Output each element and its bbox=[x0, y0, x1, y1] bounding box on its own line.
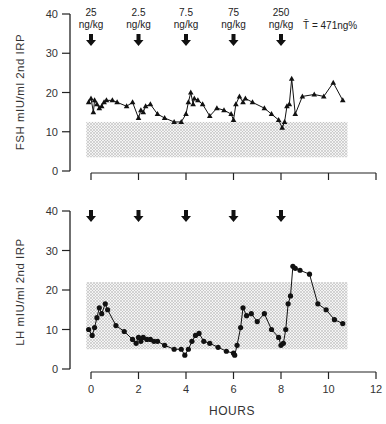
data-point bbox=[292, 111, 298, 116]
dose-unit: ng/kg bbox=[79, 19, 103, 30]
data-point bbox=[315, 301, 320, 306]
dose-value: 25 bbox=[85, 7, 97, 18]
data-point bbox=[196, 331, 201, 336]
data-point bbox=[207, 341, 212, 346]
data-point bbox=[183, 111, 189, 116]
data-point bbox=[243, 95, 249, 100]
data-point bbox=[130, 99, 136, 104]
data-point bbox=[249, 311, 254, 316]
data-point bbox=[91, 109, 97, 114]
data-point bbox=[97, 305, 102, 310]
data-point bbox=[307, 272, 312, 277]
dose-value: 2.5 bbox=[132, 7, 146, 18]
figure: 010203040 FSH mIU/ml 2nd IRP 25ng/kg2.5n… bbox=[0, 0, 386, 424]
data-point bbox=[136, 115, 142, 120]
dose-value: 75 bbox=[228, 7, 240, 18]
data-point bbox=[287, 101, 293, 106]
down-arrow-icon bbox=[86, 34, 96, 46]
data-point bbox=[182, 353, 187, 358]
data-point bbox=[105, 307, 110, 312]
down-arrow-icon bbox=[181, 210, 191, 222]
lh-x-axis: 024681012 bbox=[88, 372, 382, 395]
fsh-y-axis-label: FSH mIU/ml 2nd IRP bbox=[14, 34, 26, 150]
data-point bbox=[237, 93, 243, 98]
dose-value: 7.5 bbox=[179, 7, 193, 18]
fsh-y-ticks: 010203040 bbox=[46, 8, 70, 177]
t-bar-annotation: T̄ = 471ng% bbox=[303, 19, 357, 31]
x-tick-label: 6 bbox=[230, 383, 236, 395]
fsh-normal-range-band bbox=[86, 122, 347, 157]
lh-y-ticks: 010203040 bbox=[46, 205, 70, 375]
data-point bbox=[215, 345, 220, 350]
data-point bbox=[234, 343, 239, 348]
down-arrow-icon bbox=[229, 34, 239, 46]
data-point bbox=[255, 319, 260, 324]
data-point bbox=[188, 90, 194, 95]
data-point bbox=[190, 101, 196, 106]
x-tick-label: 10 bbox=[322, 383, 334, 395]
data-point bbox=[122, 329, 127, 334]
data-point bbox=[189, 339, 194, 344]
data-point bbox=[92, 325, 97, 330]
y-tick-label: 40 bbox=[46, 8, 58, 20]
data-point bbox=[86, 327, 91, 332]
dose-unit: ng/kg bbox=[174, 19, 198, 30]
data-point bbox=[297, 268, 302, 273]
data-point bbox=[283, 327, 288, 332]
data-point bbox=[224, 349, 229, 354]
data-point bbox=[148, 101, 154, 106]
data-point bbox=[172, 347, 177, 352]
data-point bbox=[214, 105, 220, 110]
data-point bbox=[162, 115, 168, 120]
data-point bbox=[192, 95, 198, 100]
data-point bbox=[103, 301, 108, 306]
y-tick-label: 20 bbox=[46, 284, 58, 296]
data-point bbox=[186, 347, 191, 352]
y-tick-label: 10 bbox=[46, 324, 58, 336]
fsh-series bbox=[86, 76, 346, 130]
lh-dose-arrows bbox=[86, 210, 286, 222]
y-tick-label: 0 bbox=[52, 165, 58, 177]
dose-unit: ng/kg bbox=[126, 19, 150, 30]
down-arrow-icon bbox=[229, 210, 239, 222]
data-point bbox=[88, 95, 94, 100]
data-point bbox=[340, 321, 345, 326]
data-point bbox=[233, 101, 239, 106]
data-point bbox=[232, 353, 237, 358]
down-arrow-icon bbox=[134, 210, 144, 222]
y-tick-label: 30 bbox=[46, 47, 58, 59]
data-point bbox=[324, 307, 329, 312]
data-point bbox=[282, 119, 288, 124]
data-point bbox=[262, 311, 267, 316]
data-point bbox=[269, 327, 274, 332]
lh-panel: 010203040 LH mIU/ml 2nd IRP bbox=[14, 205, 348, 375]
dose-unit: ng/kg bbox=[269, 19, 293, 30]
data-point bbox=[179, 347, 184, 352]
data-point bbox=[201, 339, 206, 344]
x-tick-label: 12 bbox=[370, 383, 382, 395]
data-point bbox=[155, 339, 160, 344]
down-arrow-icon bbox=[276, 210, 286, 222]
lh-normal-range-band bbox=[86, 282, 347, 349]
data-point bbox=[113, 323, 118, 328]
down-arrow-icon bbox=[181, 34, 191, 46]
data-point bbox=[240, 305, 245, 310]
x-tick-label: 2 bbox=[135, 383, 141, 395]
lh-y-axis-label: LH mIU/ml 2nd IRP bbox=[14, 238, 26, 346]
data-point bbox=[293, 266, 298, 271]
data-point bbox=[130, 337, 135, 342]
data-point bbox=[288, 293, 293, 298]
y-tick-label: 0 bbox=[52, 363, 58, 375]
dose-annotations: 25ng/kg2.5ng/kg7.5ng/kg75ng/kg250ng/kg bbox=[79, 7, 293, 46]
data-point bbox=[330, 80, 336, 85]
down-arrow-icon bbox=[276, 34, 286, 46]
y-tick-label: 20 bbox=[46, 87, 58, 99]
data-point bbox=[134, 341, 139, 346]
data-point bbox=[311, 91, 317, 96]
data-point bbox=[90, 333, 95, 338]
data-point bbox=[238, 325, 243, 330]
data-point bbox=[186, 99, 192, 104]
data-point bbox=[332, 317, 337, 322]
y-tick-label: 10 bbox=[46, 126, 58, 138]
dose-unit: ng/kg bbox=[221, 19, 245, 30]
